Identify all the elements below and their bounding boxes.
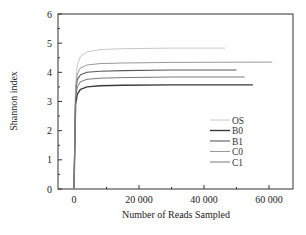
series-line-os bbox=[74, 48, 225, 189]
x-tick-label: 0 bbox=[72, 194, 77, 205]
series-line-c1 bbox=[74, 77, 245, 189]
y-tick-label: 4 bbox=[47, 67, 52, 78]
x-tick-label: 60 000 bbox=[255, 194, 283, 205]
plot-frame bbox=[58, 14, 293, 189]
y-tick-label: 5 bbox=[47, 38, 52, 49]
y-tick-label: 6 bbox=[47, 9, 52, 20]
x-axis-title: Number of Reads Sampled bbox=[122, 209, 230, 220]
x-tick-label: 20 000 bbox=[125, 194, 153, 205]
rarefaction-chart: 0123456 020 00040 00060 000 OSB0B1C0C1 S… bbox=[0, 0, 306, 235]
x-axis: 020 00040 00060 000 bbox=[72, 185, 283, 205]
legend-label-c0: C0 bbox=[232, 147, 243, 157]
y-axis-title: Shannon index bbox=[8, 71, 19, 131]
legend-label-b0: B0 bbox=[232, 126, 243, 136]
legend-label-b1: B1 bbox=[232, 137, 243, 147]
series-line-b1 bbox=[74, 70, 237, 189]
legend-label-os: OS bbox=[232, 116, 244, 126]
legend-label-c1: C1 bbox=[232, 158, 243, 168]
x-tick-label: 40 000 bbox=[190, 194, 218, 205]
y-tick-label: 2 bbox=[47, 125, 52, 136]
y-tick-label: 1 bbox=[47, 154, 52, 165]
legend: OSB0B1C0C1 bbox=[210, 116, 244, 168]
y-tick-label: 0 bbox=[47, 184, 52, 195]
series-line-b0 bbox=[74, 85, 253, 189]
y-axis: 0123456 bbox=[47, 9, 62, 195]
y-tick-label: 3 bbox=[47, 96, 52, 107]
